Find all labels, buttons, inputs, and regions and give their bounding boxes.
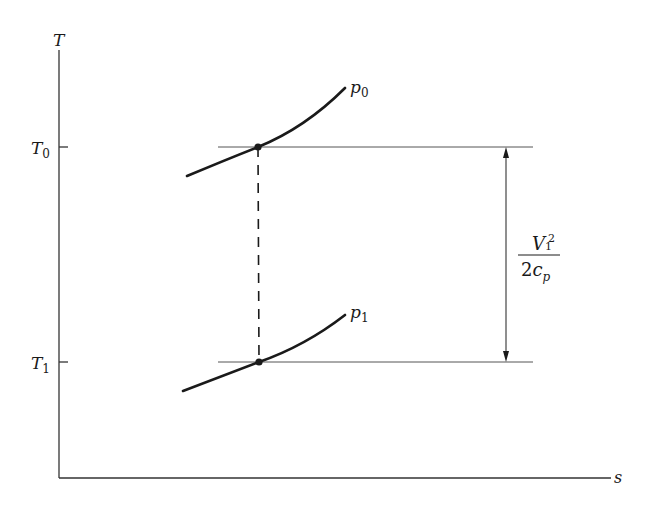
ts-diagram: T s T0 T1 p0 p1 V 2 1 2cp (0, 0, 650, 507)
tick-label-T0: T0 (31, 138, 50, 161)
isobar-p0-curve (187, 88, 345, 176)
kinetic-energy-fraction: V 2 1 2cp (518, 232, 560, 284)
x-axis-label: s (614, 468, 622, 487)
curve-label-p0: p0 (350, 77, 369, 100)
tick-label-T1: T1 (31, 353, 50, 376)
isobar-p1-curve (183, 315, 345, 391)
curve-label-p1: p1 (350, 302, 369, 325)
dimension-arrow-up-icon (503, 147, 509, 158)
dimension-arrow-down-icon (503, 351, 509, 362)
stagnation-state-point (254, 143, 261, 150)
static-state-point (255, 358, 262, 365)
fraction-numerator-subscript: 1 (545, 240, 552, 253)
isentropic-dashed-line (258, 147, 259, 362)
fraction-denominator: 2cp (521, 259, 551, 284)
y-axis-label: T (53, 30, 66, 50)
